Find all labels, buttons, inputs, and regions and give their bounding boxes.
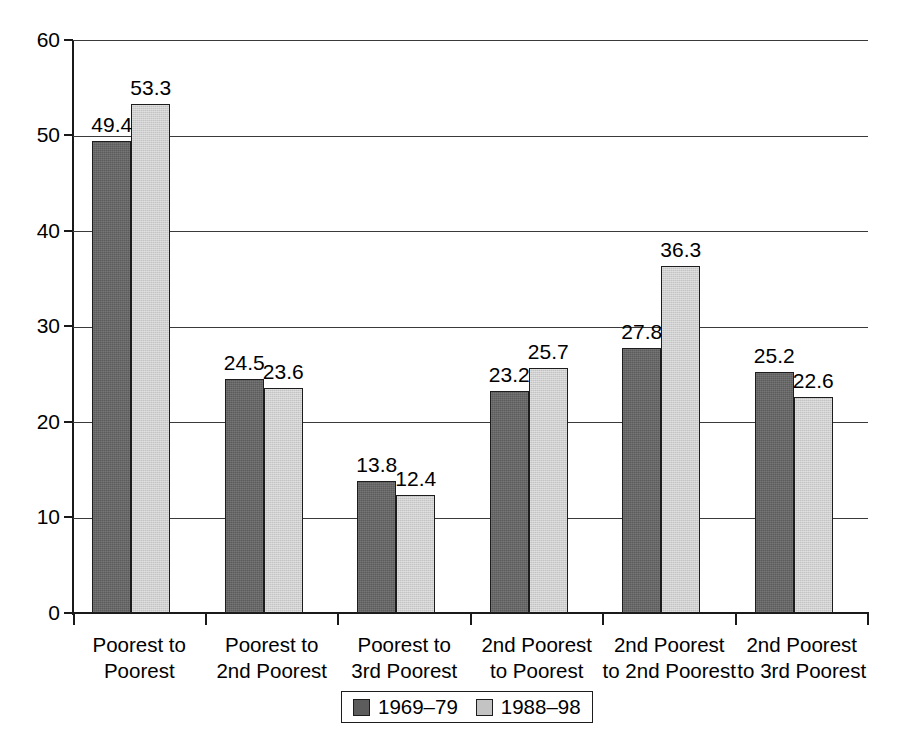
y-axis-tick-label: 20 <box>14 411 60 432</box>
bar <box>490 391 529 613</box>
bar <box>225 379 264 613</box>
x-axis-tick <box>470 613 472 625</box>
bar-value-label: 53.3 <box>117 77 184 98</box>
legend-item-label: 1988–98 <box>501 697 581 718</box>
bar <box>794 397 833 613</box>
y-axis-tick-label: 50 <box>14 124 60 145</box>
x-axis-tick <box>867 613 869 625</box>
y-axis-tick-label: 0 <box>14 602 60 623</box>
bar <box>131 104 170 613</box>
bar-value-label: 12.4 <box>382 468 449 489</box>
bar <box>661 266 700 613</box>
bar-value-label: 22.6 <box>780 370 847 391</box>
x-axis-tick <box>602 613 604 625</box>
x-axis-tick <box>73 613 75 625</box>
bar-chart: 60 50 40 30 20 10 0 1969–79 <box>0 0 898 749</box>
bar <box>622 348 661 613</box>
bar <box>357 481 396 613</box>
bar-value-label: 25.2 <box>741 345 808 366</box>
y-axis-tick-label: 60 <box>14 29 60 50</box>
gridline <box>73 518 868 519</box>
legend-item-label: 1969–79 <box>378 697 458 718</box>
legend: 1969–79 1988–98 <box>341 691 593 723</box>
x-axis-tick <box>735 613 737 625</box>
gridline <box>73 327 868 328</box>
y-axis-tick-label: 30 <box>14 315 60 336</box>
legend-swatch-icon <box>476 699 493 716</box>
gridline <box>73 136 868 137</box>
bar-value-label: 27.8 <box>608 321 675 342</box>
bar <box>92 141 131 613</box>
x-axis-tick <box>337 613 339 625</box>
x-axis-category-line: 2nd Poorest <box>702 632 898 658</box>
x-axis-category-line: to 3rd Poorest <box>702 658 898 684</box>
y-axis-tick-label: 10 <box>14 506 60 527</box>
bar-value-label: 49.4 <box>78 114 145 135</box>
bar <box>264 388 303 613</box>
bar <box>529 368 568 613</box>
plot-area <box>73 40 868 613</box>
legend-item: 1988–98 <box>476 697 581 718</box>
gridline <box>73 422 868 423</box>
bar-value-label: 23.6 <box>250 361 317 382</box>
x-axis-category-label: 2nd Poorestto 3rd Poorest <box>702 632 898 684</box>
bar <box>755 372 794 613</box>
y-axis-tick-label: 40 <box>14 220 60 241</box>
gridline <box>73 40 868 41</box>
bar-value-label: 36.3 <box>647 239 714 260</box>
legend-item: 1969–79 <box>353 697 458 718</box>
x-axis-tick <box>205 613 207 625</box>
bar-value-label: 25.7 <box>515 341 582 362</box>
bar-value-label: 23.2 <box>476 364 543 385</box>
gridline <box>73 231 868 232</box>
bar <box>396 495 435 613</box>
legend-swatch-icon <box>353 699 370 716</box>
